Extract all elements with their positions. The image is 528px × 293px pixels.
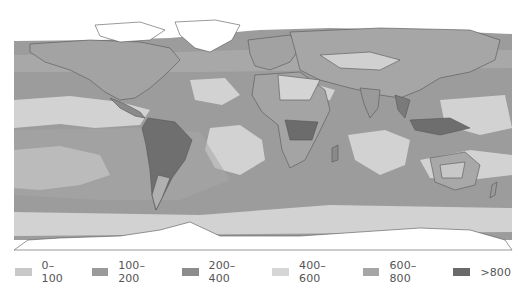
legend-item-0-100: 0–100 (15, 259, 75, 285)
legend-label: 100–200 (118, 259, 165, 285)
legend-swatch (363, 268, 380, 276)
legend-swatch (272, 268, 289, 276)
legend-item-100-200: 100–200 (92, 259, 165, 285)
legend-swatch (92, 268, 109, 276)
legend-label: 0–100 (42, 259, 75, 285)
legend-item-200-400: 200–400 (182, 259, 255, 285)
legend-item-over-800: >800 (453, 266, 511, 279)
legend-label: 600–800 (389, 259, 436, 285)
legend: 0–100 100–200 200–400 400–600 600–800 >8… (15, 264, 528, 280)
legend-swatch (182, 268, 199, 276)
legend-label: 200–400 (209, 259, 256, 285)
world-map (0, 0, 528, 258)
legend-swatch (453, 268, 470, 276)
legend-item-400-600: 400–600 (272, 259, 345, 285)
legend-swatch (15, 268, 32, 276)
legend-label: 400–600 (299, 259, 346, 285)
legend-item-600-800: 600–800 (363, 259, 436, 285)
legend-label: >800 (480, 266, 511, 279)
